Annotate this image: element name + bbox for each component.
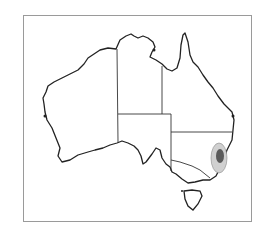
australia-map xyxy=(0,0,264,233)
island xyxy=(232,115,235,118)
island xyxy=(44,115,47,118)
range-inner xyxy=(216,149,224,163)
tasmania-outline xyxy=(184,190,202,210)
island xyxy=(153,49,156,52)
island xyxy=(181,190,183,192)
mainland-outline xyxy=(43,33,234,183)
